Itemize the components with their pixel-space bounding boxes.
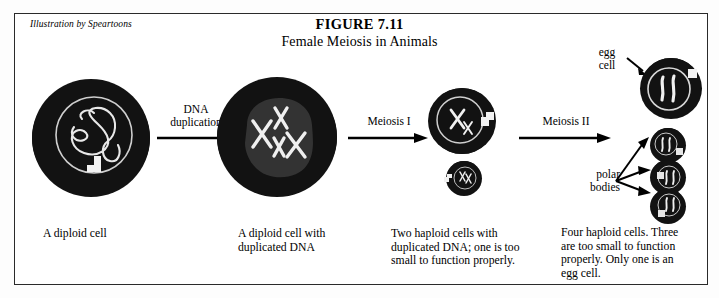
figure-container: Illustration by Speartoons FIGURE 7.11 F… bbox=[0, 0, 719, 298]
cell-diploid bbox=[32, 83, 150, 193]
caption-four-haploid: Four haploid cells. Three are too small … bbox=[561, 226, 711, 280]
haploid-large-cell-art bbox=[428, 88, 496, 154]
caption-duplicated-dna: A diploid cell with duplicated DNA bbox=[238, 227, 408, 254]
caption-line: Four haploid cells. Three bbox=[561, 226, 711, 240]
caption-line: duplicated DNA bbox=[238, 241, 408, 255]
transition-meiosis-1: Meiosis I bbox=[348, 115, 430, 144]
caption-line: egg cell. bbox=[561, 267, 711, 281]
annotation-line: egg bbox=[586, 46, 628, 59]
figure-number-title: FIGURE 7.11 bbox=[0, 16, 719, 33]
annotation-egg-cell: egg cell bbox=[586, 46, 628, 71]
arrow-meiosis-2 bbox=[519, 132, 613, 144]
caption-line: Two haploid cells with bbox=[391, 227, 566, 241]
polar-bodies-pointer-arrows bbox=[612, 135, 658, 197]
caption-line: A diploid cell bbox=[43, 227, 193, 241]
caption-line: properly. Only one is an bbox=[561, 253, 711, 267]
cell-haploid-small bbox=[446, 161, 482, 196]
annotation-polar-bodies: polar bodies bbox=[560, 168, 620, 193]
cell-egg bbox=[640, 58, 702, 119]
cell-haploid-large bbox=[428, 88, 496, 154]
transition-label-line1: Meiosis I bbox=[348, 115, 430, 128]
transition-meiosis-2: Meiosis II bbox=[519, 115, 613, 144]
caption-line: A diploid cell with bbox=[238, 227, 408, 241]
duplicated-dna-cell-art bbox=[217, 81, 337, 193]
diploid-cell-art bbox=[32, 83, 150, 193]
caption-line: duplicated DNA; one is too bbox=[391, 241, 566, 255]
annotation-line: polar bbox=[560, 168, 620, 181]
cell-duplicated-dna bbox=[217, 81, 337, 193]
caption-diploid: A diploid cell bbox=[43, 227, 193, 241]
annotation-line: bodies bbox=[560, 181, 620, 194]
caption-line: are too small to function bbox=[561, 240, 711, 254]
caption-line: small to function properly. bbox=[391, 254, 566, 268]
transition-label-line1: Meiosis II bbox=[519, 115, 613, 128]
egg-cell-art bbox=[640, 58, 702, 119]
haploid-small-cell-art bbox=[446, 161, 482, 196]
arrow-meiosis-1 bbox=[348, 132, 430, 144]
annotation-line: cell bbox=[586, 59, 628, 72]
caption-two-haploid: Two haploid cells with duplicated DNA; o… bbox=[391, 227, 566, 268]
